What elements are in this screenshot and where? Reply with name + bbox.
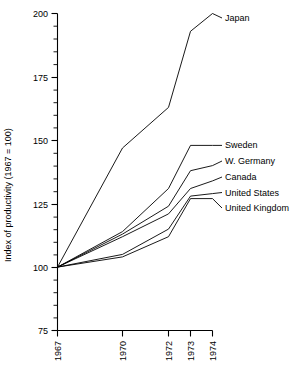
x-axis-ticks — [58, 331, 213, 337]
chart-canvas: Index of productivity (1967 = 100) — [0, 0, 292, 379]
y-axis-minor-ticks — [54, 26, 58, 318]
y-axis-title: Index of productivity (1967 = 100) — [3, 128, 13, 262]
x-tick-1972: 1972 — [164, 341, 174, 361]
y-tick-150: 150 — [33, 136, 48, 146]
series-label-w-germany: W. Germany — [225, 156, 276, 166]
series-line-japan — [58, 14, 213, 268]
x-tick-1974: 1974 — [208, 341, 218, 361]
series-line-sweden — [58, 145, 213, 267]
x-tick-1973: 1973 — [186, 341, 196, 361]
leader-line-japan — [213, 14, 223, 19]
y-axis-major-ticks — [52, 14, 58, 331]
series-label-canada: Canada — [225, 172, 257, 182]
series-lines — [58, 14, 213, 268]
y-tick-175: 175 — [33, 73, 48, 83]
leader-line-canada — [213, 177, 223, 181]
series-labels: Japan Sweden W. Germany Canada United St… — [225, 13, 289, 213]
y-tick-75: 75 — [38, 326, 48, 336]
series-line-united-kingdom — [58, 199, 213, 268]
x-tick-1967: 1967 — [53, 341, 63, 361]
series-label-united-states: United States — [225, 188, 280, 198]
x-tick-1970: 1970 — [118, 341, 128, 361]
productivity-line-chart: Index of productivity (1967 = 100) — [0, 0, 292, 379]
series-leader-lines — [213, 14, 223, 209]
leader-line-united-states — [213, 193, 223, 194]
y-tick-200: 200 — [33, 9, 48, 19]
leader-line-united-kingdom — [213, 199, 223, 208]
series-label-united-kingdom: United Kingdom — [225, 203, 289, 213]
y-tick-100: 100 — [33, 263, 48, 273]
y-tick-125: 125 — [33, 200, 48, 210]
series-label-japan: Japan — [225, 13, 250, 23]
leader-line-w-germany — [213, 161, 223, 166]
x-axis-tick-labels: 1967 1970 1972 1973 1974 — [53, 341, 218, 361]
y-axis-tick-labels: 200 175 150 125 100 75 — [33, 9, 48, 336]
series-label-sweden: Sweden — [225, 140, 258, 150]
